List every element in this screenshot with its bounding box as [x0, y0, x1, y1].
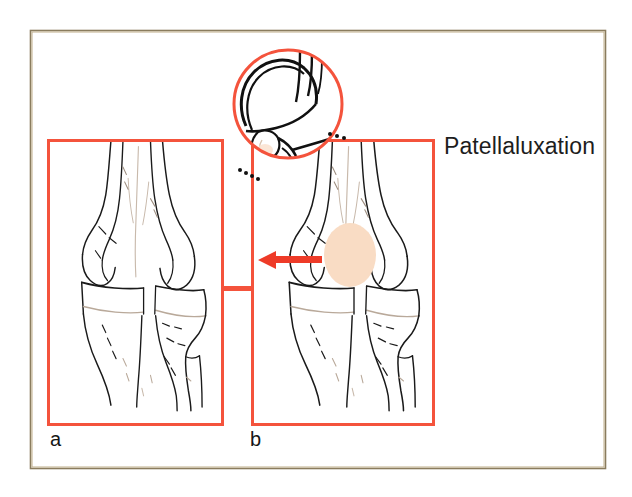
illustration-canvas: [0, 0, 632, 497]
panel-a-box[interactable]: [49, 141, 223, 425]
leader-dots-lower-left: [238, 168, 260, 181]
panel-a-anatomy: [82, 141, 206, 411]
panel-b-group[interactable]: [253, 141, 434, 425]
panel-b-anatomy: [258, 141, 419, 411]
patella-shadow-ellipse: [324, 223, 376, 287]
figure-root: Patellaluxation a b: [0, 0, 632, 497]
magnifier-circle-inset[interactable]: [224, 50, 342, 164]
panel-connector-bar: [222, 286, 252, 291]
page-title: Patellaluxation: [444, 133, 595, 160]
panel-a-group[interactable]: [49, 141, 223, 425]
panel-a-label: a: [50, 428, 61, 451]
panel-b-label: b: [250, 428, 261, 451]
